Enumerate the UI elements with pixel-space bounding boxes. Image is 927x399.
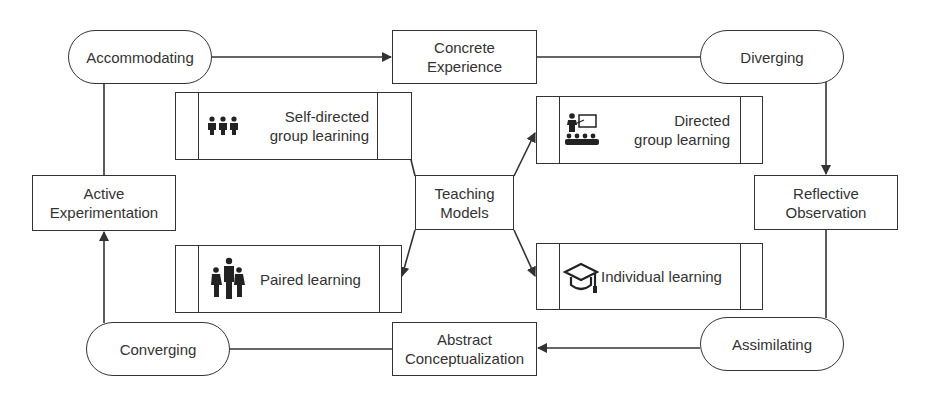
model-label-line1: Directed	[602, 111, 730, 130]
style-converging: Converging	[86, 322, 230, 376]
style-label: Diverging	[740, 48, 803, 67]
style-diverging: Diverging	[700, 30, 844, 84]
model-label-line2: group learning	[602, 130, 730, 149]
model-individual-learning: Individual learning	[536, 243, 763, 310]
stage-active-experimentation: Active Experimentation	[32, 175, 176, 231]
divider	[377, 93, 378, 159]
stage-label-line1: Abstract	[437, 330, 492, 349]
model-self-directed-group-learning: Self-directed group learining	[175, 92, 412, 160]
divider	[198, 246, 199, 312]
stage-reflective-observation: Reflective Observation	[754, 175, 898, 230]
divider	[740, 244, 741, 309]
divider	[740, 97, 741, 163]
family-people-icon	[210, 257, 248, 301]
model-label-line1: Individual learning	[601, 267, 736, 286]
stage-label-line1: Reflective	[793, 184, 859, 203]
model-label-line1: Self-directed	[240, 107, 369, 126]
style-assimilating: Assimilating	[700, 317, 844, 371]
model-paired-learning: Paired learning	[175, 245, 402, 313]
style-accommodating: Accommodating	[68, 30, 212, 84]
stage-label-line2: Experimentation	[50, 203, 158, 222]
model-label-line2: group learining	[240, 126, 369, 145]
teacher-presentation-icon	[564, 112, 602, 148]
model-label-line1: Paired learning	[260, 270, 371, 289]
stage-label-line2: Experience	[427, 57, 502, 76]
center-label-line1: Teaching	[434, 184, 494, 203]
stage-abstract-conceptualization: Abstract Conceptualization	[392, 322, 537, 376]
center-label-line2: Models	[440, 203, 488, 222]
divider	[198, 93, 199, 159]
divider	[379, 246, 380, 312]
teaching-models-center: Teaching Models	[415, 175, 514, 230]
divider	[559, 97, 560, 163]
stage-label-line1: Active	[84, 184, 125, 203]
graduation-cap-icon	[563, 260, 599, 294]
group-of-three-people-icon	[206, 116, 240, 136]
stage-concrete-experience: Concrete Experience	[392, 30, 537, 84]
stage-label-line2: Conceptualization	[405, 349, 524, 368]
style-label: Assimilating	[732, 335, 812, 354]
model-directed-group-learning: Directed group learning	[536, 96, 763, 164]
divider	[559, 244, 560, 309]
style-label: Converging	[120, 340, 197, 359]
style-label: Accommodating	[86, 48, 194, 67]
stage-label-line1: Concrete	[434, 38, 495, 57]
stage-label-line2: Observation	[786, 203, 867, 222]
